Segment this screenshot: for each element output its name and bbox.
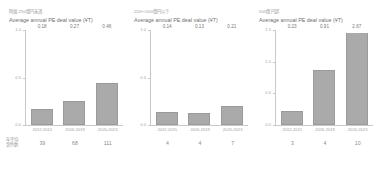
- bar-item[interactable]: 0.21: [221, 30, 243, 125]
- chart-panel-mid-cap: 250〜500億円以下 Average annual PE deal value…: [128, 0, 253, 169]
- bar-item[interactable]: 0.27: [63, 30, 85, 125]
- bar-item[interactable]: 0.91: [313, 30, 335, 125]
- bar-rect[interactable]: [156, 112, 178, 125]
- deal-count-value: 4: [152, 140, 182, 146]
- deal-count-value: 4: [310, 140, 340, 146]
- x-tick-label: 2016-2019: [185, 127, 215, 132]
- y-tick-label: 1.0: [140, 28, 146, 32]
- bar-value-label: 0.18: [38, 24, 47, 29]
- bar-value-label: 0.13: [195, 24, 204, 29]
- deal-count-caption: 年平均 案件数: [6, 137, 24, 148]
- plot-area: 1.0 0.5 0.0 0.18 0.27 0.46: [25, 30, 123, 126]
- bar-value-label: 0.27: [70, 24, 79, 29]
- bar-rect[interactable]: [31, 109, 53, 125]
- deal-count-row: 4 4 7: [151, 140, 249, 146]
- bar-item[interactable]: 0.23: [281, 30, 303, 125]
- bar-rect[interactable]: [221, 106, 243, 125]
- deal-count-value: 39: [27, 140, 57, 146]
- bar-series: 0.23 0.91 2.67: [276, 30, 373, 125]
- bar-series: 0.14 0.13 0.21: [151, 30, 248, 125]
- deal-count-value: 3: [277, 140, 307, 146]
- panel-segment-label: 時価 250億円未満: [9, 9, 42, 15]
- x-tick-label: 2016-2019: [60, 127, 90, 132]
- y-tick-mark: 0.0: [23, 125, 26, 126]
- x-tick-label: 2016-2019: [310, 127, 340, 132]
- deal-count-value: 68: [60, 140, 90, 146]
- bar-item[interactable]: 0.18: [31, 30, 53, 125]
- bar-series: 0.18 0.27 0.46: [26, 30, 123, 125]
- x-tick-label: 2020-2023: [93, 127, 123, 132]
- x-tick-label: 2012-2015: [152, 127, 182, 132]
- plot-area: 1.5 1.0 0.5 0.0 0.23 0.91: [275, 30, 373, 126]
- deal-count-row: 39 68 111: [26, 140, 124, 146]
- y-tick-label: 1.0: [15, 28, 21, 32]
- y-tick-label: 1.5: [265, 28, 271, 32]
- deal-count-row: 3 4 10: [276, 140, 374, 146]
- panel-metric-label: Average annual PE deal value (¥T): [134, 17, 218, 24]
- bar-rect[interactable]: [346, 33, 368, 125]
- y-tick-label: 0.5: [140, 76, 146, 80]
- chart-panel-small-cap: 時価 250億円未満 Average annual PE deal value …: [3, 0, 128, 169]
- x-axis-category-labels: 2012-2015 2016-2019 2020-2023: [26, 127, 124, 132]
- bar-item[interactable]: 2.67: [346, 30, 368, 125]
- y-tick-label: 0.5: [265, 91, 271, 95]
- y-tick-mark: 0.0: [148, 125, 151, 126]
- y-tick-label: 0.0: [15, 123, 21, 127]
- panel-metric-label: Average annual PE deal value (¥T): [259, 17, 343, 24]
- deal-count-value: 111: [93, 140, 123, 146]
- figure-canvas: 時価 250億円未満 Average annual PE deal value …: [0, 0, 380, 169]
- x-axis-category-labels: 2012-2015 2016-2019 2020-2023: [151, 127, 249, 132]
- panel-segment-label: 500億円超: [259, 9, 279, 15]
- bar-rect[interactable]: [96, 83, 118, 125]
- y-tick-label: 0.5: [15, 76, 21, 80]
- y-tick-label: 0.0: [265, 123, 271, 127]
- deal-count-value: 7: [218, 140, 248, 146]
- plot-area: 1.0 0.5 0.0 0.14 0.13 0.21: [150, 30, 248, 126]
- bar-value-label: 0.23: [288, 24, 297, 29]
- chart-panel-large-cap: 500億円超 Average annual PE deal value (¥T)…: [253, 0, 378, 169]
- bar-value-label: 0.21: [227, 24, 236, 29]
- x-axis-line: [150, 125, 248, 126]
- bar-item[interactable]: 0.14: [156, 30, 178, 125]
- bar-value-label: 0.46: [102, 24, 111, 29]
- panel-segment-label: 250〜500億円以下: [134, 9, 169, 15]
- x-axis-line: [25, 125, 123, 126]
- bar-rect[interactable]: [63, 101, 85, 125]
- x-tick-label: 2020-2023: [218, 127, 248, 132]
- deal-count-value: 10: [343, 140, 373, 146]
- bar-value-label: 0.91: [320, 24, 329, 29]
- bar-item[interactable]: 0.46: [96, 30, 118, 125]
- bar-rect[interactable]: [281, 111, 303, 125]
- x-axis-line: [275, 125, 373, 126]
- x-tick-label: 2012-2015: [277, 127, 307, 132]
- bar-item[interactable]: 0.13: [188, 30, 210, 125]
- deal-count-caption-line2: 案件数: [6, 142, 24, 147]
- y-tick-mark: 0.0: [273, 125, 276, 126]
- bar-rect[interactable]: [313, 70, 335, 125]
- bar-rect[interactable]: [188, 113, 210, 125]
- bar-value-label: 0.14: [163, 24, 172, 29]
- y-tick-label: 1.0: [265, 60, 271, 64]
- x-tick-label: 2020-2023: [343, 127, 373, 132]
- bar-value-label: 2.67: [352, 24, 361, 29]
- x-tick-label: 2012-2015: [27, 127, 57, 132]
- x-axis-category-labels: 2012-2015 2016-2019 2020-2023: [276, 127, 374, 132]
- deal-count-value: 4: [185, 140, 215, 146]
- panel-metric-label: Average annual PE deal value (¥T): [9, 17, 93, 24]
- y-tick-label: 0.0: [140, 123, 146, 127]
